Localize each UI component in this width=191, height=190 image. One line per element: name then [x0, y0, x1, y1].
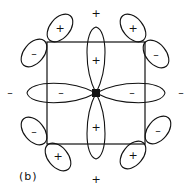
- sign-bl-outer: +: [53, 150, 62, 163]
- central-orbital: [27, 27, 165, 159]
- sign-bl-inner: –: [31, 125, 37, 138]
- sign-br-outer: +: [128, 149, 137, 162]
- sign-lobe-bottom: +: [91, 121, 100, 134]
- sign-outer-right: –: [178, 86, 184, 99]
- sign-br-inner: –: [155, 124, 161, 137]
- sign-lobe-top: +: [91, 54, 100, 67]
- sign-outer-left: –: [7, 86, 13, 99]
- sign-tr-outer: +: [128, 22, 137, 35]
- sign-outer-bottom: +: [91, 173, 100, 186]
- sign-lobe-right: –: [129, 86, 135, 99]
- sign-outer-top: +: [91, 7, 100, 20]
- sign-tr-inner: –: [153, 48, 159, 61]
- metal-center: [92, 89, 100, 97]
- figure-label: (b): [19, 170, 38, 183]
- sign-lobe-left: –: [58, 86, 64, 99]
- orbital-diagram: + + – – + – + – – + – + + + – – (b): [0, 0, 191, 190]
- sign-tl-outer: +: [55, 22, 64, 35]
- sign-tl-inner: –: [31, 47, 37, 60]
